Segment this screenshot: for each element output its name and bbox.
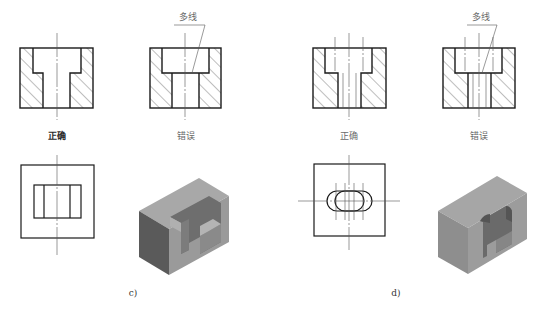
verdict-wrong-c: 错误 <box>177 132 195 141</box>
verdict-correct-d: 正确 <box>340 132 358 141</box>
verdict-correct-c: 正确 <box>48 132 66 141</box>
iso-view-d <box>438 176 527 274</box>
annotation-extra-line-c: 多线 <box>179 13 197 22</box>
plan-view-d <box>298 155 402 250</box>
leader-line <box>174 25 205 73</box>
annotation-extra-line-d: 多线 <box>472 13 490 22</box>
verdict-wrong-d: 错误 <box>470 132 488 141</box>
figure-canvas <box>0 0 541 316</box>
iso-view-c <box>139 178 229 275</box>
section-c-correct <box>20 33 93 120</box>
caption-c: c) <box>129 289 138 298</box>
section-c-wrong <box>150 25 221 120</box>
section-d-correct <box>313 33 386 120</box>
leader-line <box>467 25 497 73</box>
caption-d: d) <box>391 289 400 298</box>
section-d-wrong <box>443 25 515 120</box>
plan-view-c <box>21 155 94 255</box>
